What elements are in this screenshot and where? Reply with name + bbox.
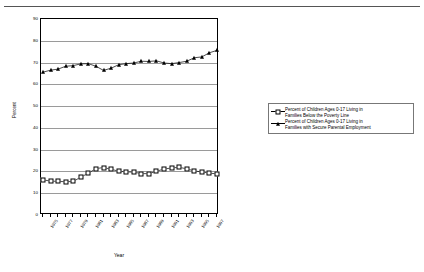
data-point-marker [41, 177, 46, 182]
x-tick [57, 214, 58, 217]
y-tick-label: 60 [33, 82, 38, 86]
x-tick [193, 214, 194, 217]
data-point-marker [162, 167, 167, 172]
x-tick-label: 1981 [95, 219, 104, 229]
data-point-marker [207, 51, 211, 55]
x-tick [171, 214, 172, 217]
data-point-marker [78, 175, 83, 180]
data-point-marker [102, 68, 106, 72]
x-tick [87, 214, 88, 217]
plot-area: 0102030405060708090 [40, 18, 218, 214]
data-point-marker [41, 70, 45, 74]
x-tick [186, 214, 187, 217]
data-point-marker [86, 61, 90, 65]
x-tick [72, 214, 73, 217]
series-lines [41, 19, 219, 215]
data-point-marker [86, 171, 91, 176]
x-tick [155, 214, 156, 217]
x-tick-label: 1997 [216, 219, 225, 229]
data-point-marker [71, 63, 75, 67]
data-point-marker [79, 62, 83, 66]
data-point-marker [101, 165, 106, 170]
x-tick [140, 214, 141, 217]
data-point-marker [139, 59, 143, 63]
y-tick-label: 80 [33, 39, 38, 43]
chart-figure: Percent 0102030405060708090 197519771979… [0, 0, 424, 272]
y-tick-label: 40 [33, 126, 38, 130]
legend-marker-filled-triangle [271, 120, 285, 127]
x-tick-label: 1993 [186, 219, 195, 229]
data-point-marker [215, 48, 219, 52]
x-tick [50, 214, 51, 217]
data-point-marker [48, 179, 53, 184]
data-point-marker [94, 64, 98, 68]
y-tick-label: 90 [33, 17, 38, 21]
data-point-marker [185, 59, 189, 63]
data-point-marker [109, 167, 114, 172]
y-axis-title: Percent [12, 102, 17, 118]
legend-label-employment: Percent of Children Ages 0-17 Living in … [285, 119, 371, 130]
data-point-marker [109, 66, 113, 70]
data-point-marker [93, 166, 98, 171]
x-tick [95, 214, 96, 217]
data-point-marker [64, 64, 68, 68]
data-point-marker [71, 179, 76, 184]
x-tick [103, 214, 104, 217]
data-point-marker [184, 166, 189, 171]
legend-item: Percent of Children Ages 0-17 Living in … [271, 119, 410, 130]
x-tick [216, 214, 217, 217]
data-point-marker [154, 169, 159, 174]
x-tick [42, 214, 43, 217]
data-point-marker [147, 59, 151, 63]
y-tick-label: 30 [33, 147, 38, 151]
data-point-marker [49, 68, 53, 72]
x-tick [110, 214, 111, 217]
data-point-marker [56, 67, 60, 71]
data-point-marker [170, 61, 174, 65]
data-point-marker [117, 63, 121, 67]
data-point-marker [177, 60, 181, 64]
data-point-marker [63, 179, 68, 184]
data-point-marker [192, 56, 196, 60]
x-tick [208, 214, 209, 217]
data-point-marker [215, 171, 220, 176]
y-tick-label: 0 [36, 213, 38, 217]
legend-label-poverty: Percent of Children Ages 0-17 Living in … [285, 107, 363, 118]
x-axis: 1975197719791981198319851987198919911993… [40, 214, 218, 254]
data-point-marker [146, 171, 151, 176]
data-point-marker [177, 165, 182, 170]
x-tick [118, 214, 119, 217]
x-tick [133, 214, 134, 217]
data-point-marker [207, 171, 212, 176]
chart-legend: Percent of Children Ages 0-17 Living in … [268, 103, 414, 134]
data-point-marker [116, 169, 121, 174]
data-point-marker [139, 171, 144, 176]
y-tick-label: 70 [33, 60, 38, 64]
x-tick-label: 1987 [141, 219, 150, 229]
x-tick [163, 214, 164, 217]
x-tick-label: 1991 [171, 219, 180, 229]
x-tick-label: 1989 [156, 219, 165, 229]
x-tick [65, 214, 66, 217]
x-tick-label: 1979 [80, 219, 89, 229]
data-point-marker [124, 61, 128, 65]
y-tick-label: 20 [33, 169, 38, 173]
y-tick-label: 50 [33, 104, 38, 108]
legend-item: Percent of Children Ages 0-17 Living in … [271, 107, 410, 118]
data-point-marker [169, 165, 174, 170]
x-axis-title: Year [114, 252, 124, 258]
x-tick-label: 1995 [201, 219, 210, 229]
data-point-marker [132, 61, 136, 65]
x-tick [148, 214, 149, 217]
x-tick [125, 214, 126, 217]
x-tick [178, 214, 179, 217]
x-tick-label: 1975 [50, 219, 59, 229]
legend-marker-open-square [271, 108, 285, 115]
x-tick-label: 1985 [126, 219, 135, 229]
y-tick-label: 10 [33, 191, 38, 195]
data-point-marker [154, 59, 158, 63]
x-tick [80, 214, 81, 217]
data-point-marker [124, 169, 129, 174]
data-point-marker [162, 61, 166, 65]
data-point-marker [56, 179, 61, 184]
